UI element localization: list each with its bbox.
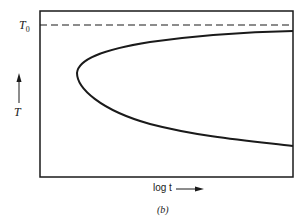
figure-caption: (b) (157, 204, 169, 215)
plot-frame (40, 11, 293, 177)
t0-label: T0 (19, 18, 30, 34)
y-axis-arrow (17, 73, 22, 103)
x-axis-arrow (176, 187, 204, 192)
c-curve (77, 31, 293, 146)
x-axis-label: log t (153, 182, 172, 193)
y-axis-label: T (14, 105, 21, 120)
